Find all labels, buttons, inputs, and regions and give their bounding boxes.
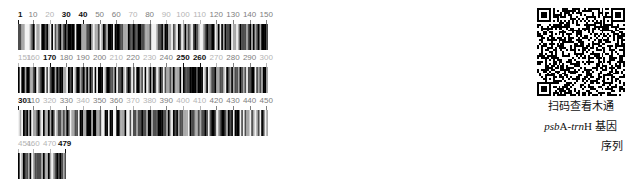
ruler-tick-label: 50 — [95, 10, 104, 19]
qr-panel: 扫码查看木通 psbA-trnH 基因 序列 — [534, 6, 627, 178]
barcode-ruler: 1102030405060708090100110120130140150 — [18, 10, 504, 24]
ruler-tick-label: 220 — [126, 53, 139, 62]
ruler-tick-label: 260 — [193, 53, 206, 62]
ruler-tick-label: 290 — [243, 53, 256, 62]
ruler-tick-label: 200 — [93, 53, 106, 62]
ruler-tick-label: 460 — [26, 139, 39, 148]
ruler-tick-label: 110 — [193, 10, 206, 19]
gene-roman-h: H 基因 — [584, 120, 617, 132]
ruler-tick-label: 40 — [79, 10, 88, 19]
gene-italic-psb: psb — [544, 120, 559, 132]
ruler-tick-label: 479 — [58, 139, 71, 148]
ruler-tick-label: 340 — [76, 96, 89, 105]
barcode-ruler: 1511601701801902002102202302402502602702… — [18, 53, 504, 67]
ruler-tick-label: 140 — [243, 10, 256, 19]
barcode-canvas — [18, 153, 66, 179]
ruler-tick-label: 420 — [210, 96, 223, 105]
ruler-tick-label: 400 — [176, 96, 189, 105]
barcode-ruler: 3013103203303403503603703803904004104204… — [18, 96, 504, 110]
barcode-row: 451460470479 — [18, 139, 135, 179]
ruler-tick-label: 280 — [226, 53, 239, 62]
ruler-tick-label: 10 — [29, 10, 38, 19]
ruler-tick-label: 60 — [112, 10, 121, 19]
ruler-tick-label: 1 — [18, 10, 22, 19]
barcode-canvas — [18, 24, 268, 50]
ruler-tick-label: 440 — [243, 96, 256, 105]
barcode-bars — [18, 110, 504, 136]
ruler-tick-label: 20 — [45, 10, 54, 19]
caption-line-1: 扫码查看木通 — [534, 96, 627, 116]
ruler-tick-label: 190 — [76, 53, 89, 62]
gene-roman-a: A- — [560, 120, 572, 132]
barcode-canvas — [18, 67, 268, 93]
ruler-tick-label: 320 — [43, 96, 56, 105]
ruler-tick-label: 90 — [162, 10, 171, 19]
barcode-ruler: 451460470479 — [18, 139, 135, 153]
ruler-tick-label: 410 — [193, 96, 206, 105]
ruler-tick-label: 170 — [43, 53, 56, 62]
barcode-bars — [18, 24, 504, 50]
gene-italic-trn: trn — [571, 120, 584, 132]
ruler-tick-label: 210 — [110, 53, 123, 62]
barcode-bars — [18, 153, 135, 179]
barcode-row: 1102030405060708090100110120130140150 — [18, 10, 504, 50]
figure-canvas: 1102030405060708090100110120130140150151… — [0, 0, 627, 180]
barcode-row: 3013103203303403503603703803904004104204… — [18, 96, 504, 136]
ruler-tick-label: 80 — [145, 10, 154, 19]
ruler-tick-label: 70 — [129, 10, 138, 19]
ruler-tick-label: 450 — [260, 96, 273, 105]
caption-line-2: psbA-trnH 基因 — [534, 116, 627, 136]
ruler-tick-label: 360 — [110, 96, 123, 105]
ruler-tick-label: 30 — [62, 10, 71, 19]
ruler-tick-label: 430 — [226, 96, 239, 105]
ruler-tick-label: 470 — [43, 139, 56, 148]
ruler-tick-label: 350 — [93, 96, 106, 105]
ruler-tick-label: 120 — [210, 10, 223, 19]
ruler-tick-label: 300 — [260, 53, 273, 62]
ruler-tick-label: 380 — [143, 96, 156, 105]
qr-code[interactable] — [537, 8, 625, 96]
caption-line-3: 序列 — [534, 136, 627, 156]
ruler-tick-label: 270 — [210, 53, 223, 62]
ruler-tick-label: 240 — [160, 53, 173, 62]
ruler-tick-label: 230 — [143, 53, 156, 62]
ruler-tick-label: 330 — [60, 96, 73, 105]
ruler-tick-label: 390 — [160, 96, 173, 105]
ruler-tick-label: 370 — [126, 96, 139, 105]
barcode-row: 1511601701801902002102202302402502602702… — [18, 53, 504, 93]
dna-barcode-panel: 1102030405060708090100110120130140150151… — [0, 0, 522, 180]
barcode-canvas — [18, 110, 268, 136]
ruler-tick-label: 150 — [260, 10, 273, 19]
ruler-tick-label: 160 — [26, 53, 39, 62]
ruler-tick-label: 180 — [60, 53, 73, 62]
ruler-tick-label: 100 — [176, 10, 189, 19]
barcode-bars — [18, 67, 504, 93]
ruler-tick-label: 310 — [26, 96, 39, 105]
ruler-tick-label: 250 — [176, 53, 189, 62]
ruler-tick-label: 130 — [226, 10, 239, 19]
